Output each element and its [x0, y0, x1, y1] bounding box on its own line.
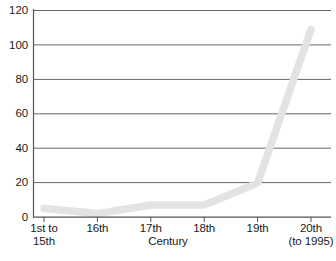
- x-tick-label-2-line1: 17th: [140, 222, 162, 234]
- x-tick-label-0-line1: 1st to: [30, 222, 58, 234]
- x-tick-label-4-line1: 19th: [247, 222, 269, 234]
- data-series-line: [44, 30, 311, 214]
- x-axis-title: Century: [0, 235, 336, 247]
- y-tick-label-60: 60: [0, 108, 28, 119]
- x-tick-label-3-line1: 18th: [193, 222, 215, 234]
- y-tick-label-120: 120: [0, 5, 28, 16]
- y-tick-label-0: 0: [0, 212, 28, 223]
- line-chart: 120 100 80 60 40 20 0 1st to 15th 16th 1…: [0, 0, 336, 261]
- y-tick-label-100: 100: [0, 40, 28, 51]
- x-tick-label-5-line1: 20th: [300, 222, 322, 234]
- y-tick-label-80: 80: [0, 74, 28, 85]
- axes: [33, 9, 331, 218]
- y-tick-label-40: 40: [0, 143, 28, 154]
- series-polyline: [44, 30, 311, 214]
- x-tick-label-1-line1: 16th: [86, 222, 108, 234]
- y-tick-label-20: 20: [0, 177, 28, 188]
